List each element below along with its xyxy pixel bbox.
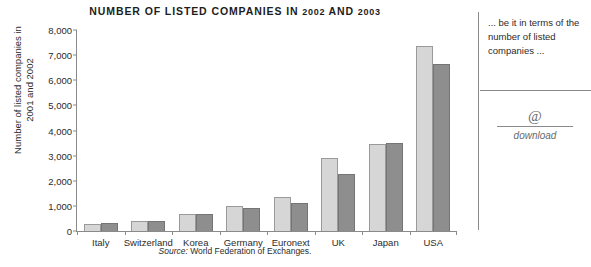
y-axis-title-line-2: 2001 and 2002 [24, 10, 36, 170]
download-underline [497, 126, 573, 127]
bar-germany-2003 [243, 208, 260, 231]
bar-uk-2002 [321, 158, 338, 231]
y-tick-label-3000: 3,000 [48, 150, 72, 161]
bar-group: Switzerland [125, 30, 173, 231]
x-tick-mark [315, 231, 316, 235]
bar-group: Italy [77, 30, 125, 231]
bar-euronext-2003 [291, 203, 308, 231]
y-tick-label-6000: 6,000 [48, 75, 72, 86]
download-link[interactable]: @ download [492, 108, 578, 142]
bar-group: Euronext [267, 30, 315, 231]
bar-italy-2002 [84, 224, 101, 231]
bar-group: Germany [220, 30, 268, 231]
x-tick-mark [267, 231, 268, 235]
bar-uk-2003 [338, 174, 355, 231]
bar-euronext-2002 [274, 197, 291, 231]
chart-title-year-2003: 2003 [358, 7, 381, 17]
bar-germany-2002 [226, 206, 243, 231]
bar-groups: ItalySwitzerlandKoreaGermanyEuronextUKJa… [77, 30, 457, 231]
y-tick-label-7000: 7,000 [48, 50, 72, 61]
side-panel-note: ... be it in terms of the number of list… [488, 16, 584, 58]
chart-figure: NUMBER OF LISTED COMPANIES IN 2002 AND 2… [0, 0, 478, 267]
x-tick-mark [125, 231, 126, 235]
side-panel-divider [480, 90, 591, 91]
y-tick-label-0: 0 [67, 226, 72, 237]
source-label: Source: [159, 246, 188, 256]
bar-italy-2003 [101, 223, 118, 231]
source-note: Source: World Federation of Exchanges. [0, 246, 470, 256]
x-tick-mark [77, 231, 78, 235]
side-panel: ... be it in terms of the number of list… [478, 8, 591, 260]
bar-japan-2003 [386, 143, 403, 231]
download-label: download [492, 129, 578, 142]
at-sign-icon: @ [492, 108, 578, 124]
y-tick-label-2000: 2,000 [48, 175, 72, 186]
x-tick-mark [456, 231, 457, 235]
plot-area: 8,000 7,000 6,000 5,000 4,000 3,000 2,00… [76, 30, 457, 232]
x-tick-mark [220, 231, 221, 235]
bar-korea-2003 [196, 214, 213, 231]
chart-title-year-2002: 2002 [302, 7, 325, 17]
bar-group: UK [315, 30, 363, 231]
y-tick-label-1000: 1,000 [48, 200, 72, 211]
y-tick-label-4000: 4,000 [48, 125, 72, 136]
y-tick-label-8000: 8,000 [48, 25, 72, 36]
x-tick-mark [172, 231, 173, 235]
source-value: World Federation of Exchanges. [190, 246, 311, 256]
bar-switzerland-2002 [131, 221, 148, 231]
bar-usa-2002 [416, 46, 433, 231]
bar-group: USA [410, 30, 458, 231]
x-tick-mark [362, 231, 363, 235]
y-tick-label-5000: 5,000 [48, 100, 72, 111]
y-axis-title: Number of listed companies in 2001 and 2… [12, 10, 36, 170]
y-axis-title-line-1: Number of listed companies in [12, 10, 24, 170]
bar-switzerland-2003 [148, 221, 165, 231]
chart-title: NUMBER OF LISTED COMPANIES IN 2002 AND 2… [0, 5, 470, 17]
bar-group: Korea [172, 30, 220, 231]
bar-japan-2002 [369, 144, 386, 231]
side-panel-vertical-rule [478, 12, 479, 230]
bar-usa-2003 [433, 64, 450, 231]
bar-group: Japan [362, 30, 410, 231]
figure-page: NUMBER OF LISTED COMPANIES IN 2002 AND 2… [0, 0, 591, 267]
bar-korea-2002 [179, 214, 196, 231]
chart-title-prefix: NUMBER OF LISTED COMPANIES IN [89, 5, 302, 17]
x-tick-mark [410, 231, 411, 235]
chart-title-joiner: AND [325, 5, 358, 17]
